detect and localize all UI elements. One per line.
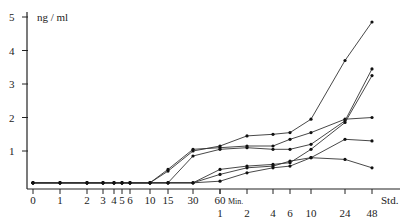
data-point — [288, 131, 291, 134]
data-point — [218, 168, 221, 171]
data-point — [370, 67, 373, 70]
data-point — [166, 168, 169, 171]
x-hour-tick-label: 1 — [217, 207, 223, 219]
x-minute-tick-label: 15 — [163, 194, 175, 206]
x-hour-tick-label: 4 — [270, 207, 276, 219]
data-point — [120, 181, 123, 184]
data-point — [288, 138, 291, 141]
x-minute-tick-label: 30 — [188, 194, 200, 206]
data-point — [370, 166, 373, 169]
data-point — [112, 181, 115, 184]
x-minute-tick-label: 4 — [111, 194, 117, 206]
data-point — [245, 146, 248, 149]
data-point — [343, 138, 346, 141]
y-tick-label: 5 — [9, 11, 15, 23]
data-point — [148, 181, 151, 184]
data-point — [218, 173, 221, 176]
x-hour-tick-label: 24 — [340, 207, 352, 219]
data-point — [271, 144, 274, 147]
data-point — [245, 171, 248, 174]
data-point — [343, 158, 346, 161]
data-point — [288, 148, 291, 151]
data-point — [166, 181, 169, 184]
data-point — [191, 154, 194, 157]
series-layer — [31, 20, 373, 184]
series-line — [33, 69, 372, 183]
x-minute-tick-label: 5 — [119, 194, 125, 206]
x-hour-tick-label: 48 — [367, 207, 379, 219]
x-hour-tick-label: 6 — [287, 207, 293, 219]
x-hour-tick-label: 2 — [244, 207, 250, 219]
data-point — [370, 139, 373, 142]
x-minute-tick-label: 2 — [84, 194, 90, 206]
y-tick-label: 3 — [9, 78, 15, 90]
data-point — [245, 134, 248, 137]
data-point — [343, 59, 346, 62]
data-point — [191, 148, 194, 151]
data-point — [271, 166, 274, 169]
series-line — [33, 118, 372, 183]
axes: 123450123456101530601246102448 — [9, 11, 400, 219]
data-point — [343, 121, 346, 124]
x-minute-tick-label: 60 — [215, 194, 227, 206]
x-minute-tick-label: 0 — [30, 194, 36, 206]
x-hour-tick-label: 10 — [306, 207, 318, 219]
data-point — [218, 148, 221, 151]
data-point — [271, 133, 274, 136]
data-point — [309, 148, 312, 151]
series-5 — [31, 138, 373, 185]
data-point — [370, 74, 373, 77]
data-point — [245, 166, 248, 169]
data-point — [31, 181, 34, 184]
series-2 — [31, 116, 373, 184]
series-line — [33, 139, 372, 183]
y-axis-label: ng / ml — [37, 11, 68, 23]
data-point — [288, 165, 291, 168]
series-1 — [31, 20, 373, 184]
x-minute-tick-label: 1 — [57, 194, 63, 206]
series-3 — [31, 67, 373, 184]
y-tick-label: 2 — [9, 112, 15, 124]
series-line — [33, 22, 372, 183]
series-4 — [31, 74, 373, 184]
y-tick-label: 1 — [9, 145, 15, 157]
x-minutes-unit-label: Min. — [228, 197, 243, 206]
data-point — [85, 181, 88, 184]
chart-canvas: 123450123456101530601246102448 ng / ml M… — [0, 0, 404, 224]
data-point — [288, 160, 291, 163]
x-minute-tick-label: 6 — [127, 194, 133, 206]
data-point — [191, 181, 194, 184]
data-point — [101, 181, 104, 184]
data-point — [309, 143, 312, 146]
series-line — [33, 76, 372, 183]
data-point — [309, 118, 312, 121]
y-tick-label: 4 — [9, 45, 15, 57]
x-minute-tick-label: 10 — [145, 194, 157, 206]
data-point — [309, 131, 312, 134]
data-point — [370, 20, 373, 23]
data-point — [218, 180, 221, 183]
data-point — [309, 156, 312, 159]
data-point — [128, 181, 131, 184]
data-point — [370, 116, 373, 119]
data-point — [58, 181, 61, 184]
series-line — [33, 158, 372, 183]
x-minute-tick-label: 3 — [100, 194, 106, 206]
pharmacokinetic-line-chart: 123450123456101530601246102448 ng / ml M… — [0, 0, 404, 224]
data-point — [271, 148, 274, 151]
x-hours-unit-label: Std. — [381, 194, 399, 206]
